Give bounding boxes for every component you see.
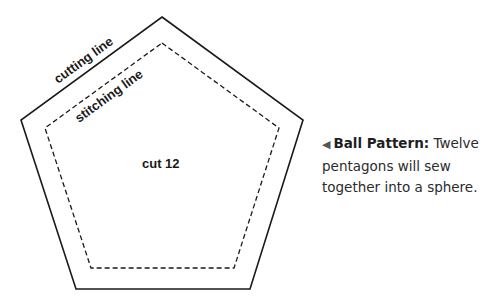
cutting-line-outline (21, 17, 303, 289)
cutting-line-label: cutting line (51, 34, 116, 87)
cut-count-label: cut 12 (142, 156, 180, 171)
caption: ◀Ball Pattern: Twelve pentagons will sew… (322, 133, 502, 199)
left-arrow-icon: ◀ (322, 138, 330, 151)
caption-title: Ball Pattern: (333, 135, 429, 151)
